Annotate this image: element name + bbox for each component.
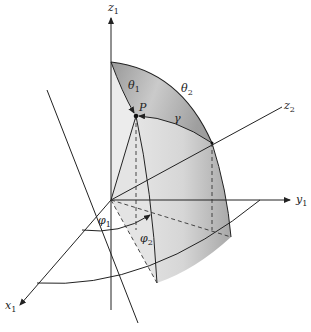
label-gamma: γ (174, 113, 181, 124)
point-z2 (211, 142, 214, 145)
label-z1: z1 (108, 2, 119, 16)
label-y1: y1 (296, 194, 307, 208)
label-theta1: θ1 (128, 80, 140, 94)
label-phi1: φ1 (98, 215, 111, 229)
label-theta2: θ2 (181, 83, 193, 97)
diagram-canvas (0, 0, 311, 332)
diagram: z1 z2 y1 x1 θ1 θ2 P γ φ1 φ2 (0, 0, 311, 332)
point-p (134, 114, 139, 119)
label-z2: z2 (284, 100, 295, 114)
label-x1: x1 (5, 300, 16, 314)
label-phi2: φ2 (140, 233, 153, 247)
label-p: P (139, 102, 146, 113)
